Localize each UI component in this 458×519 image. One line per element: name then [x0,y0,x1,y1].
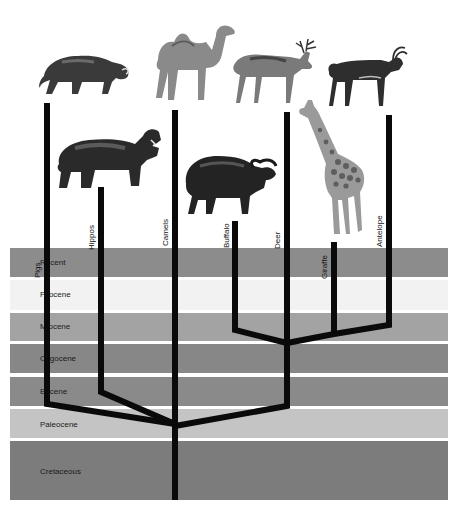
hippo-illustration [55,126,165,192]
taxon-label-hippos: Hippos [87,225,96,250]
giraffe-illustration [298,96,378,238]
taxon-label-deer: Deer [273,232,282,249]
taxon-label-buffalo: Buffalo [222,223,231,248]
camel-illustration [150,22,240,104]
warthog-illustration [38,48,133,100]
taxon-label-camels: Camels [161,219,170,246]
taxon-label-giraffe: Giraffe [320,255,329,279]
taxon-label-pigs: Pigs [33,262,42,278]
buffalo-illustration [182,152,280,218]
